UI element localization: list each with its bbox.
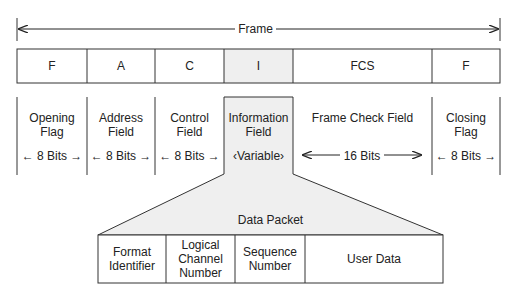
field-name-fcs: Frame Check Field <box>293 111 432 125</box>
field-abbr-opening-flag: F <box>17 49 87 83</box>
field-name-opening-flag: Opening Flag <box>17 111 87 139</box>
arrow-right-icon: › <box>280 149 284 163</box>
field-name-information: Information Field <box>224 111 293 139</box>
size-address: ← 8 Bits → <box>87 149 155 163</box>
arrow-left-icon: ← <box>91 149 103 163</box>
arrow-right-icon: → <box>208 149 220 163</box>
field-name-address: Address Field <box>87 111 155 139</box>
packet-field-format-identifier: Format Identifier <box>98 235 166 283</box>
size-fcs: 16 Bits <box>340 149 384 163</box>
arrow-left-icon: ← <box>159 149 171 163</box>
field-abbr-information: I <box>224 49 293 83</box>
size-control: ← 8 Bits → <box>155 149 224 163</box>
field-abbr-control: C <box>155 49 224 83</box>
size-opening-flag: ← 8 Bits → <box>17 149 87 163</box>
packet-field-user-data: User Data <box>305 235 443 283</box>
field-name-closing-flag: Closing Flag <box>432 111 500 139</box>
arrow-right-icon: → <box>139 149 151 163</box>
size-information: ‹Variable› <box>224 149 293 163</box>
packet-field-sequence-number: Sequence Number <box>235 235 305 283</box>
packet-field-logical-channel-number: Logical Channel Number <box>166 235 235 283</box>
arrow-left-icon: ← <box>436 149 448 163</box>
field-name-control: Control Field <box>155 111 224 139</box>
field-abbr-closing-flag: F <box>432 49 500 83</box>
field-abbr-address: A <box>87 49 155 83</box>
arrow-left-icon: ← <box>22 149 34 163</box>
arrow-right-icon: → <box>70 149 82 163</box>
packet-title: Data Packet <box>98 213 443 227</box>
field-abbr-fcs: FCS <box>293 49 432 83</box>
frame-title: Frame <box>235 22 276 36</box>
size-closing-flag: ← 8 Bits → <box>432 149 500 163</box>
arrow-right-icon: → <box>484 149 496 163</box>
